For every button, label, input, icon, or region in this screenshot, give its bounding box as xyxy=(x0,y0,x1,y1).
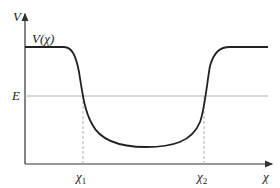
x-axis-label: χ xyxy=(263,170,269,183)
turning-point-1-subscript: 1 xyxy=(82,176,87,186)
energy-label: E xyxy=(12,89,20,102)
y-axis-label: V xyxy=(13,10,21,23)
curve-label: V(χ) xyxy=(32,32,54,45)
potential-diagram xyxy=(0,0,280,188)
turning-point-2-label: χ2 xyxy=(197,170,207,186)
turning-point-2-subscript: 2 xyxy=(203,176,208,186)
turning-point-1-label: χ1 xyxy=(76,170,86,186)
potential-curve xyxy=(25,47,268,147)
